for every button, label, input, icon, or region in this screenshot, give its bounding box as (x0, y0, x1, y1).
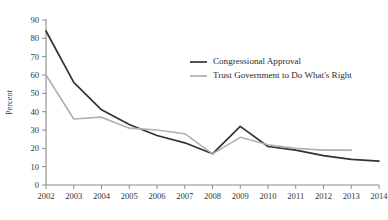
y-tick-labels: 0102030405060708090 (30, 15, 39, 190)
y-tick-label: 30 (30, 125, 39, 135)
y-tick-label: 80 (30, 33, 39, 43)
x-tick-label: 2007 (176, 191, 194, 201)
x-tick-label: 2006 (148, 191, 166, 201)
series-line-congressional-approval (46, 31, 379, 161)
y-tick-label: 40 (30, 107, 39, 117)
x-axis-group: 2002200320042005200620072008200920102011… (37, 185, 388, 201)
x-tick-label: 2014 (370, 191, 388, 201)
x-tick-marks (46, 185, 379, 189)
chart-canvas: 0102030405060708090 Percent 200220032004… (0, 0, 388, 220)
y-tick-label: 0 (35, 180, 39, 190)
y-tick-label: 10 (30, 162, 39, 172)
x-tick-label: 2009 (232, 191, 249, 201)
x-tick-label: 2008 (204, 191, 221, 201)
x-tick-label: 2011 (287, 191, 304, 201)
series-group (46, 31, 379, 161)
series-line-trust-government-to-do-what-s-right (46, 75, 351, 154)
legend-label-1: Trust Government to Do What's Right (213, 70, 352, 80)
x-tick-label: 2013 (343, 191, 360, 201)
x-tick-label: 2010 (259, 191, 276, 201)
y-axis-group: 0102030405060708090 Percent (5, 15, 46, 190)
y-tick-marks (42, 20, 46, 185)
y-tick-label: 90 (30, 15, 39, 25)
x-tick-label: 2012 (315, 191, 332, 201)
x-tick-labels: 2002200320042005200620072008200920102011… (37, 191, 388, 201)
y-tick-label: 70 (30, 52, 39, 62)
y-tick-label: 20 (30, 143, 39, 153)
x-tick-label: 2002 (37, 191, 54, 201)
y-tick-label: 60 (30, 70, 39, 80)
x-tick-label: 2004 (93, 191, 111, 201)
y-axis-title: Percent (5, 89, 14, 115)
x-tick-label: 2003 (65, 191, 82, 201)
x-tick-label: 2005 (121, 191, 138, 201)
line-chart: 0102030405060708090 Percent 200220032004… (0, 0, 388, 220)
legend-label-0: Congressional Approval (213, 56, 302, 66)
chart-legend: Congressional ApprovalTrust Government t… (190, 56, 352, 80)
y-tick-label: 50 (30, 88, 39, 98)
